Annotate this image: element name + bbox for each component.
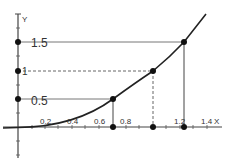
x-axis-label: X (214, 117, 220, 126)
x-tick-label-0.8: 0.8 (120, 117, 132, 126)
y-tick-label-0.5: 0.5 (31, 94, 48, 108)
y-tick-label-1: 1 (22, 66, 28, 77)
x-tick-label-0.2: 0.2 (40, 117, 52, 126)
y-axis-label: Y (22, 15, 28, 24)
x-tick-label-1.4: 1.4 (201, 117, 213, 126)
x-tick-label-0.4: 0.4 (67, 117, 79, 126)
y-tick-label-1.5: 1.5 (31, 36, 48, 50)
x-tick-label-1.2: 1.2 (174, 117, 186, 126)
x-tick-label-0.6: 0.6 (94, 117, 106, 126)
function-plot: Y 1.5 1 0.5 0.2 0.4 0.6 0.8 1.2 1.4 X (0, 0, 235, 165)
